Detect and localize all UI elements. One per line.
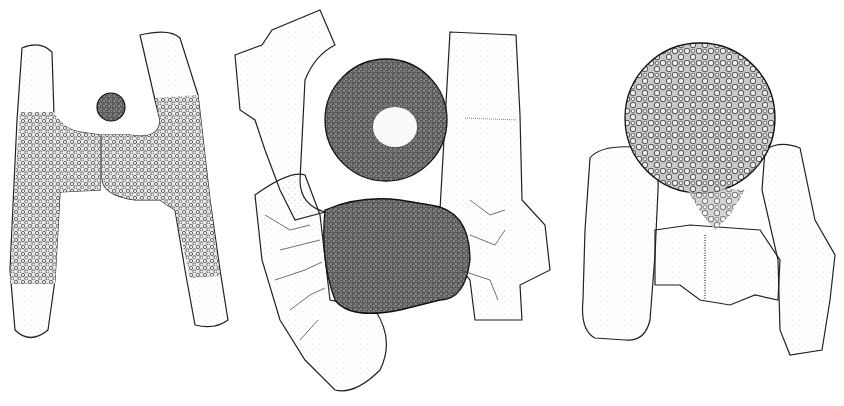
zygospore-clear-center [373, 107, 417, 147]
lower-zygote-mass [324, 199, 470, 314]
central-bridge [655, 225, 780, 305]
illustration-canvas [0, 0, 844, 406]
panel-3 [583, 43, 836, 355]
zygote-bud [97, 93, 125, 121]
zygospore-sphere [625, 43, 775, 193]
illustration-figure [0, 0, 844, 406]
right-cell-granules [102, 95, 220, 278]
panel-1 [10, 32, 228, 337]
left-cell [583, 147, 659, 340]
panel-2 [235, 10, 550, 391]
left-cell-granules [10, 112, 100, 284]
granule-spill [685, 185, 745, 230]
